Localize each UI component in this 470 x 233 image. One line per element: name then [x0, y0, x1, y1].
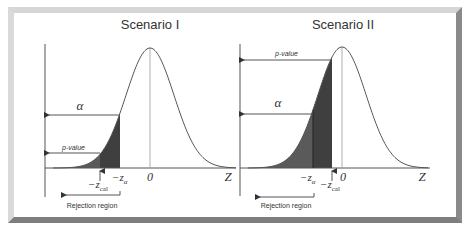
hypothesis-test-diagram: Scenario I α p-value −zα −zcal 0 Z Rejec…: [0, 0, 470, 233]
pvalue-label: p-value: [61, 144, 85, 152]
neg-z-alpha-label: −zα: [300, 171, 316, 186]
scenario-2-panel: Scenario II α p-value −zα −zcal 0 Z Reje…: [240, 17, 430, 210]
scenario-1-panel: Scenario I α p-value −zα −zcal 0 Z Rejec…: [45, 17, 236, 210]
alpha-label: α: [77, 98, 85, 113]
z-axis-label: Z: [418, 169, 426, 184]
scenario-1-title: Scenario I: [121, 17, 180, 32]
pvalue-region-shade: [248, 110, 313, 168]
zero-label: 0: [340, 170, 346, 184]
neg-z-cal-label: −zcal: [88, 178, 108, 193]
pvalue-minus-alpha-shade: [313, 57, 332, 168]
zero-label: 0: [147, 170, 153, 184]
z-axis-label: Z: [224, 169, 232, 184]
neg-z-alpha-label: −zα: [112, 171, 128, 186]
pvalue-label: p-value: [274, 50, 298, 58]
alpha-label: α: [275, 95, 283, 110]
neg-z-cal-label: −zcal: [320, 178, 340, 193]
scenario-2-title: Scenario II: [312, 17, 374, 32]
rejection-region-label: Rejection region: [67, 202, 118, 210]
rejection-region-label: Rejection region: [261, 202, 312, 210]
